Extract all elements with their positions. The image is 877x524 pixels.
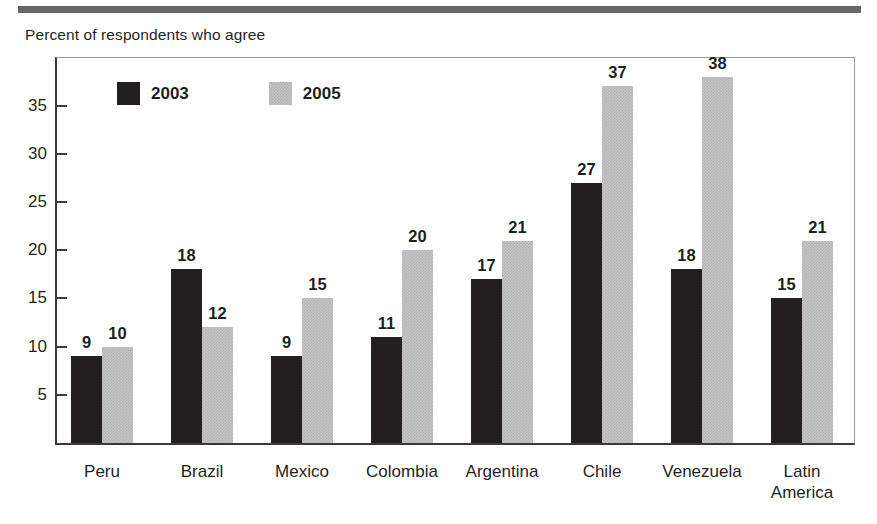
legend-label: 2005 [303, 84, 341, 104]
chart-legend: 20032005 [117, 82, 341, 105]
y-axis-tick-label: 20 [28, 240, 47, 260]
x-axis-tick-label: Colombia [366, 461, 438, 482]
legend-swatch-icon-2003 [117, 82, 140, 105]
y-axis-tick-label: 15 [28, 288, 47, 308]
y-axis-tick-label: 25 [28, 192, 47, 212]
legend-item-2003[interactable]: 2003 [117, 82, 189, 105]
x-axis-tick-label: Argentina [466, 461, 539, 482]
y-axis-tick-mark [57, 394, 67, 396]
legend-swatch-icon-2005 [269, 82, 292, 105]
chart-title: Percent of respondents who agree [25, 26, 265, 44]
x-axis-tick-label: Mexico [275, 461, 329, 482]
legend-item-2005[interactable]: 2005 [269, 82, 341, 105]
y-axis-tick-label: 35 [28, 96, 47, 116]
y-axis: 5101520253035 [0, 0, 47, 524]
x-axis-tick-label: Peru [84, 461, 120, 482]
y-axis-tick-label: 30 [28, 144, 47, 164]
x-axis-tick-label: Chile [583, 461, 622, 482]
top-divider-rule [18, 6, 861, 13]
chart-figure: Percent of respondents who agree 5101520… [0, 0, 877, 524]
x-axis-tick-label: Venezuela [662, 461, 741, 482]
y-axis-tick-mark [57, 153, 67, 155]
y-axis-tick-label: 5 [38, 385, 47, 405]
x-axis-tick-label: Latin America [771, 461, 833, 504]
y-axis-tick-mark [57, 249, 67, 251]
y-axis-tick-mark [57, 105, 67, 107]
y-axis-tick-label: 10 [28, 337, 47, 357]
legend-label: 2003 [151, 84, 189, 104]
y-axis-tick-mark [57, 201, 67, 203]
x-axis-tick-label: Brazil [181, 461, 224, 482]
y-axis-tick-mark [57, 346, 67, 348]
y-axis-tick-mark [57, 297, 67, 299]
plot-frame [55, 57, 855, 445]
